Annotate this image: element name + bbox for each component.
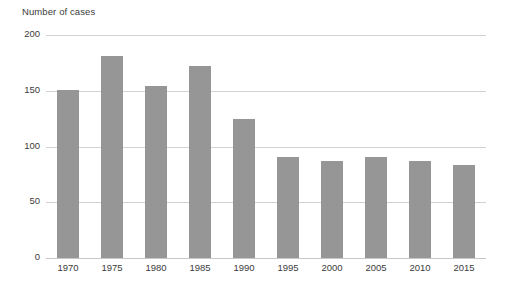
gridline-0	[46, 258, 486, 259]
bar	[233, 119, 255, 258]
bar	[277, 157, 299, 258]
bar	[453, 165, 475, 258]
plot-area	[46, 35, 486, 258]
y-tick-200: 200	[0, 29, 40, 41]
x-tick-label: 1980	[134, 261, 178, 275]
bar	[321, 161, 343, 258]
x-tick-label: 1995	[266, 261, 310, 275]
bar-chart: Number of cases 050100150200 19701975198…	[0, 0, 506, 285]
x-tick-label: 1975	[90, 261, 134, 275]
y-tick-label: 200	[6, 29, 40, 39]
y-tick-label: 100	[6, 141, 40, 151]
chart-title: Number of cases	[22, 6, 95, 17]
x-tick-label: 1990	[222, 261, 266, 275]
bar	[365, 157, 387, 258]
x-tick-label: 1970	[46, 261, 90, 275]
bar	[189, 66, 211, 258]
bar	[57, 90, 79, 258]
y-tick-label: 0	[6, 252, 40, 262]
x-axis: 1970197519801985199019952000200520102015	[46, 261, 486, 277]
x-tick-label: 2015	[442, 261, 486, 275]
x-tick-label: 2010	[398, 261, 442, 275]
x-tick-label: 1985	[178, 261, 222, 275]
bar	[101, 56, 123, 258]
y-tick-100: 100	[0, 141, 40, 153]
y-tick-0: 0	[0, 252, 40, 264]
y-tick-label: 50	[6, 196, 40, 206]
bar	[409, 161, 431, 258]
y-axis: 050100150200	[0, 35, 40, 258]
y-tick-label: 150	[6, 85, 40, 95]
bar	[145, 86, 167, 258]
y-tick-150: 150	[0, 85, 40, 97]
x-tick-label: 2005	[354, 261, 398, 275]
x-tick-label: 2000	[310, 261, 354, 275]
gridline-200	[46, 35, 486, 36]
y-tick-50: 50	[0, 196, 40, 208]
